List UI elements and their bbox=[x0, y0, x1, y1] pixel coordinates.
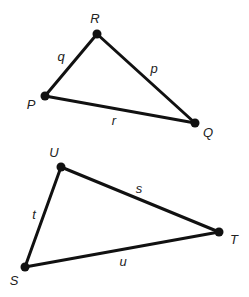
vertex-q bbox=[191, 119, 200, 128]
vertex-t bbox=[215, 228, 224, 237]
label-vertex-q: Q bbox=[203, 125, 213, 140]
label-side-p: p bbox=[149, 61, 157, 76]
vertex-s bbox=[21, 263, 30, 272]
label-vertex-s: S bbox=[10, 273, 19, 288]
label-vertex-r: R bbox=[90, 11, 99, 26]
side-r bbox=[45, 96, 195, 123]
side-s bbox=[61, 167, 219, 232]
label-vertex-t: T bbox=[230, 232, 239, 247]
vertex-p bbox=[41, 92, 50, 101]
label-side-r: r bbox=[112, 113, 117, 128]
triangle-pqr: R P Q q p r bbox=[27, 11, 213, 140]
side-q bbox=[45, 34, 97, 96]
side-t bbox=[25, 167, 61, 267]
vertex-u bbox=[57, 163, 66, 172]
label-side-u: u bbox=[119, 254, 126, 269]
label-side-t: t bbox=[32, 207, 37, 222]
label-side-s: s bbox=[136, 181, 143, 196]
triangles-diagram: R P Q q p r U S T s t u bbox=[0, 0, 249, 297]
side-p bbox=[97, 34, 195, 123]
label-vertex-u: U bbox=[49, 145, 59, 160]
label-vertex-p: P bbox=[27, 97, 36, 112]
label-side-q: q bbox=[57, 49, 65, 64]
vertex-r bbox=[93, 30, 102, 39]
triangle-stu: U S T s t u bbox=[10, 145, 239, 288]
